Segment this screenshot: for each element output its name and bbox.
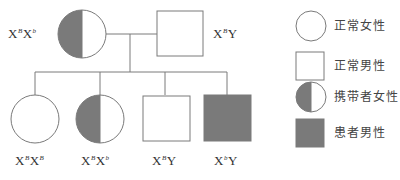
legend-label-affected-male: 患者男性: [334, 127, 386, 139]
legend-label-carrier-female: 携带者女性: [334, 91, 399, 103]
legend-label-normal-female: 正常女性: [334, 20, 386, 32]
legend-normal-male-icon: [296, 52, 324, 80]
child-4-affected-male-symbol: [204, 95, 251, 141]
child-1-normal-female-symbol: [11, 95, 59, 143]
legend: [296, 11, 326, 147]
child-4-genotype-label: XbY: [214, 154, 237, 167]
mother-genotype-label: XBXb: [8, 27, 37, 40]
mother-carrier-female-symbol: [58, 10, 106, 58]
child-2-carrier-female-symbol: [76, 95, 124, 143]
child-3-genotype-label: XBY: [152, 154, 176, 167]
legend-label-normal-male: 正常男性: [334, 60, 386, 72]
legend-affected-male-icon: [296, 119, 324, 147]
child-3-normal-male-symbol: [143, 96, 190, 141]
father-genotype-label: XBY: [213, 27, 237, 40]
legend-carrier-female-icon: [296, 82, 326, 112]
child-1-genotype-label: XBXB: [15, 154, 44, 167]
father-normal-male-symbol: [157, 11, 203, 56]
child-2-genotype-label: XBXb: [81, 154, 110, 167]
legend-normal-female-icon: [296, 11, 326, 41]
